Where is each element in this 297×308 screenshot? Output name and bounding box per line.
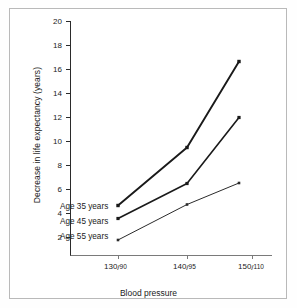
data-point-marker bbox=[185, 146, 188, 149]
data-point-marker bbox=[116, 217, 119, 220]
data-point-marker bbox=[238, 182, 241, 185]
series-age-45-years bbox=[116, 116, 240, 220]
series-line bbox=[118, 118, 239, 219]
series-age-35-years bbox=[116, 60, 240, 207]
chart-plot-area bbox=[0, 0, 297, 308]
data-point-marker bbox=[117, 239, 120, 242]
data-point-marker bbox=[116, 204, 119, 207]
data-point-marker bbox=[237, 60, 240, 63]
series-line bbox=[118, 183, 239, 240]
data-point-marker bbox=[237, 116, 240, 119]
data-point-marker bbox=[186, 203, 189, 206]
figure-container: Decrease in life expectancy (years) Bloo… bbox=[0, 0, 297, 308]
data-point-marker bbox=[185, 182, 188, 185]
y-axis bbox=[66, 21, 71, 256]
series-line bbox=[118, 62, 239, 206]
x-axis bbox=[71, 256, 273, 260]
